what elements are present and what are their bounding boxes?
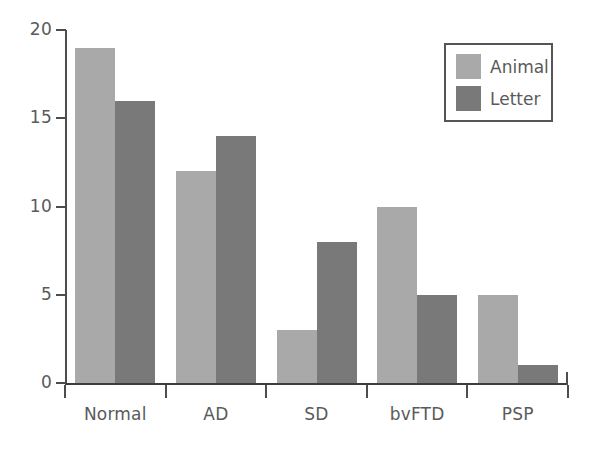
y-axis-tick-label: 15 [8,107,52,127]
legend-entry-letter: Letter [456,86,540,111]
legend-label-letter: Letter [490,89,540,109]
bar-psp-animal [478,295,518,383]
x-axis-tick [366,385,368,398]
bar-ad-animal [176,171,216,383]
bar-sd-animal [277,330,317,383]
legend-label-animal: Animal [490,57,549,77]
bar-chart-figure: 05101520 NormalADSDbvFTDPSP Animal Lette… [0,0,605,449]
bar-psp-letter [518,365,558,383]
bar-normal-letter [115,101,155,383]
x-axis-label-psp: PSP [502,404,534,424]
x-axis-label-normal: Normal [84,404,147,424]
x-axis-label-sd: SD [304,404,328,424]
legend-swatch-letter-icon [456,86,481,111]
x-axis-tick [165,385,167,398]
y-axis-tick-label: 5 [8,284,52,304]
x-axis-tick [466,385,468,398]
x-axis-tick [265,385,267,398]
bar-bvftd-letter [417,295,457,383]
y-axis-tick-label: 0 [8,372,52,392]
x-axis-label-ad: AD [203,404,228,424]
legend-entry-animal: Animal [456,54,549,79]
bar-sd-letter [317,242,357,383]
bar-normal-animal [75,48,115,383]
x-axis-tick [64,385,66,398]
x-axis-tick [567,385,569,398]
x-axis-label-bvftd: bvFTD [390,404,445,424]
legend-swatch-animal-icon [456,54,481,79]
legend: Animal Letter [444,43,553,122]
bar-bvftd-animal [377,207,417,384]
y-axis-tick-label: 20 [8,19,52,39]
y-axis-tick-label: 10 [8,196,52,216]
bar-ad-letter [216,136,256,383]
x-axis-line [65,383,568,385]
